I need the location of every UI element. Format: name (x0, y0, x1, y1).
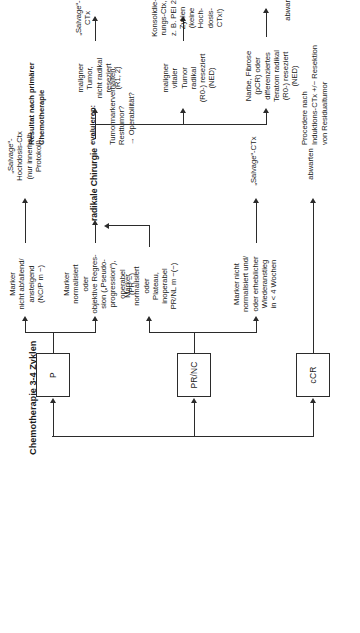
histo1-to-outcome-arrow (263, 8, 269, 13)
node-outcome-ccr-wait[interactable]: abwarten (306, 135, 315, 193)
p-upper-to-outcome-line (25, 201, 26, 243)
p-lower-line (95, 319, 96, 333)
node-outcome-histology-salvage[interactable]: „Salvage“- CTx (74, 3, 93, 33)
node-outcome-histology-wait[interactable]: abwarten (283, 0, 292, 33)
prnc-upper-to-surgery-line (149, 225, 150, 247)
prnc-upper-to-surgery-riser (108, 225, 150, 226)
prnc-split-line (149, 332, 257, 333)
prnc-upper-to-surgery-arrow (104, 223, 109, 229)
node-outcome-consolidation-ctx[interactable]: Konsolidie- rungs-Ctx, z. B. PEI 2 Zykle… (150, 3, 224, 33)
histo3-to-outcome-arrow (92, 16, 98, 21)
trunk-to-prnc-line (194, 401, 195, 437)
node-response-ccr[interactable]: cCR (296, 353, 330, 397)
trunk-to-p-line (53, 401, 54, 437)
trunk-to-ccr-line (313, 401, 314, 437)
prnc-lower-to-outcome-line (256, 201, 257, 243)
prnc-stem-line (194, 333, 195, 353)
trunk-to-ccr-arrow (310, 398, 316, 403)
node-outcome-prnc-salvage[interactable]: „Salvage“-CTx (249, 127, 258, 195)
prnc-lower-line (256, 319, 257, 333)
node-histology-tumor-r1r2[interactable]: maligner Tumor, nicht radikal reseziert … (76, 45, 122, 111)
histo3-line (95, 111, 96, 125)
flowchart-canvas: Chemotherapie 3-4 Zyklen Resultat nach p… (0, 0, 360, 633)
trunk-to-prnc-arrow (191, 398, 197, 403)
node-eval-p-marker-rising[interactable]: Marker nicht abfallend/ ansteigend (NC/P… (8, 249, 45, 319)
node-radical-surgery[interactable]: radikale Chirurgie (89, 139, 99, 221)
histo1-line (266, 111, 267, 125)
histo1-to-outcome-line (266, 9, 267, 37)
p-upper-line (25, 319, 26, 333)
p-stem-line (53, 333, 54, 353)
p-upper-to-outcome-arrow (22, 198, 28, 203)
node-response-p[interactable]: P (36, 353, 70, 397)
p-lower-to-surgery-line (95, 223, 96, 243)
column-header-procedure: Procedere nach Induktions-CTx +/− Resekt… (300, 0, 330, 145)
node-histology-scar-fibrosis[interactable]: Narbe, Fibrose (pCR) oder differenzierte… (244, 41, 300, 111)
node-eval-p-marker-normalized[interactable]: Marker normalisiert oder objektive Regre… (62, 249, 136, 319)
prnc-upper-line (149, 319, 150, 333)
ccr-to-outcome-arrow (310, 198, 316, 203)
prnc-lower-to-outcome-arrow (253, 198, 259, 203)
histo2-line (183, 111, 184, 125)
node-outcome-p-highdose-salvage[interactable]: „Salvage“- Hochdosis-Ctx (nur innerhalb … (6, 117, 43, 195)
node-histology-viable-tumor-r0[interactable]: maligner vitaler Tumor radikal (R0-) res… (161, 45, 217, 111)
node-eval-prnc-marker-not-normalized[interactable]: Marker nicht normalisiert und/ oder erhe… (232, 249, 278, 319)
surgery-out-line (95, 125, 96, 139)
trunk-to-p-arrow (50, 398, 56, 403)
surgery-split-line (95, 124, 267, 125)
p-split-line (25, 332, 95, 333)
node-response-prnc[interactable]: PR/NC (177, 353, 211, 397)
ccr-to-outcome-line (313, 201, 314, 353)
trunk-line (52, 436, 314, 437)
